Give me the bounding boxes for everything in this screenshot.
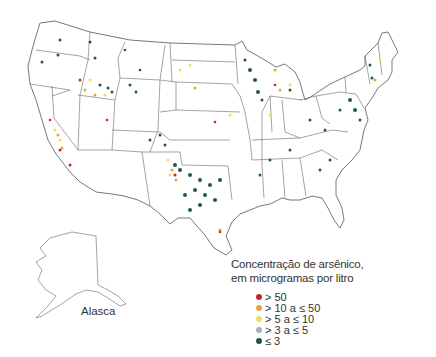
legend-item-gt3: > 3 a ≤ 5 xyxy=(256,324,431,335)
legend-item-gt5: > 5 a ≤ 10 xyxy=(256,313,431,324)
legend-items: > 50 > 10 a ≤ 50 > 5 a ≤ 10 > 3 a ≤ 5 ≤ … xyxy=(256,291,431,346)
yellow-dot-icon xyxy=(256,316,262,322)
legend-title-line2: em microgramas por litro xyxy=(231,271,431,285)
legend-item-gt10: > 10 a ≤ 50 xyxy=(256,302,431,313)
legend-title-line1: Concentração de arsênico, xyxy=(231,257,431,271)
us-outline xyxy=(28,21,398,255)
legend-item-le3: ≤ 3 xyxy=(256,335,431,346)
red-dot-icon xyxy=(256,294,262,300)
legend-label: ≤ 3 xyxy=(265,335,280,347)
legend-item-gt50: > 50 xyxy=(256,291,431,302)
alaska-label: Alasca xyxy=(81,305,116,317)
legend: Concentração de arsênico, em microgramas… xyxy=(231,257,431,346)
green-dot-icon xyxy=(256,338,262,344)
gray-dot-icon xyxy=(256,327,262,333)
orange-dot-icon xyxy=(256,305,262,311)
